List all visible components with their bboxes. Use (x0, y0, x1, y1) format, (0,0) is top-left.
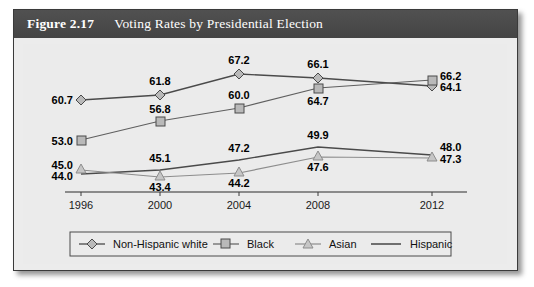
x-axis: 1996 2000 2004 2008 2012 (65, 192, 467, 211)
marker-diamond-white-2008 (313, 73, 323, 83)
series-lines (81, 74, 432, 177)
x-tick-label-2008: 2008 (306, 199, 330, 211)
data-label-white-1996: 60.7 (52, 94, 73, 106)
voting-rates-line-chart: 60.7 61.8 67.2 66.1 64.1 53.0 56.8 60.0 … (23, 44, 507, 264)
series-markers (76, 69, 437, 180)
data-label-black-2012: 66.2 (440, 70, 461, 82)
marker-square-black-2004 (235, 104, 244, 113)
square-icon (221, 239, 230, 248)
data-label-hispanic-2000: 45.1 (149, 152, 170, 164)
legend-label-non-hispanic-white: Non-Hispanic white (113, 238, 208, 250)
data-label-asian-2000: 43.4 (149, 181, 171, 193)
x-tick-label-2004: 2004 (227, 199, 251, 211)
data-label-hispanic-2008: 49.9 (307, 129, 328, 141)
figure-header-bar: Figure 2.17 Voting Rates by Presidential… (14, 10, 517, 38)
figure-container: Figure 2.17 Voting Rates by Presidential… (13, 9, 518, 271)
legend-label-hispanic: Hispanic (410, 238, 453, 250)
marker-diamond-white-2000 (155, 90, 165, 100)
data-label-asian-1996: 45.0 (52, 159, 73, 171)
x-tick-label-2000: 2000 (148, 199, 172, 211)
chart-legend: Non-Hispanic white Black Asian (70, 232, 453, 256)
data-label-black-2000: 56.8 (149, 103, 170, 115)
data-label-hispanic-1996: 44.0 (52, 170, 73, 182)
figure-title: Voting Rates by Presidential Election (114, 16, 323, 32)
marker-triangle-asian-2004 (234, 167, 244, 176)
marker-square-black-1996 (77, 136, 86, 145)
marker-triangle-asian-2012 (427, 152, 437, 161)
series-line-asian (81, 157, 432, 177)
data-label-asian-2004: 44.2 (228, 177, 249, 189)
data-label-white-2004: 67.2 (228, 54, 249, 66)
data-label-white-2012: 64.1 (440, 81, 461, 93)
legend-label-black: Black (247, 238, 274, 250)
marker-square-black-2012 (428, 76, 437, 85)
chart-plot-area: 60.7 61.8 67.2 66.1 64.1 53.0 56.8 60.0 … (23, 44, 507, 264)
data-label-black-2004: 60.0 (228, 89, 249, 101)
marker-square-black-2008 (314, 84, 323, 93)
data-label-black-1996: 53.0 (52, 135, 73, 147)
figure-number: Figure 2.17 (27, 16, 94, 32)
marker-triangle-asian-2008 (313, 151, 323, 160)
marker-triangle-asian-2000 (155, 171, 165, 180)
data-label-asian-2008: 47.6 (307, 161, 328, 173)
series-line-black (81, 80, 432, 140)
data-label-white-2008: 66.1 (307, 58, 328, 70)
figure-body: 60.7 61.8 67.2 66.1 64.1 53.0 56.8 60.0 … (14, 38, 517, 270)
data-label-black-2008: 64.7 (307, 95, 328, 107)
marker-triangle-asian-1996 (76, 164, 86, 173)
series-line-non-hispanic-white (81, 74, 432, 100)
data-label-asian-2012: 47.3 (440, 153, 461, 165)
x-tick-label-2012: 2012 (420, 199, 444, 211)
x-tick-label-1996: 1996 (69, 199, 93, 211)
legend-label-asian: Asian (329, 238, 357, 250)
marker-diamond-white-2004 (234, 69, 244, 79)
marker-diamond-white-1996 (76, 95, 86, 105)
data-label-hispanic-2004: 47.2 (228, 142, 249, 154)
data-label-hispanic-2012: 48.0 (440, 141, 461, 153)
data-label-white-2000: 61.8 (149, 75, 170, 87)
marker-square-black-2000 (156, 117, 165, 126)
